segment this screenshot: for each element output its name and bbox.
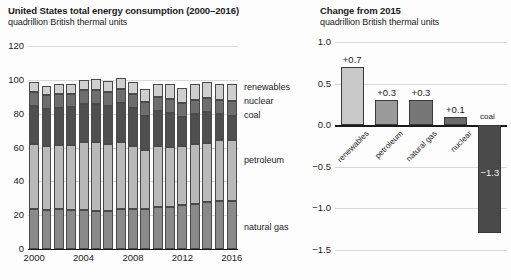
left-x-tick-label: 2000 [20,252,48,263]
stacked-bar-segment-renewables [66,84,76,94]
stacked-bar-segment-petroleum [177,146,187,205]
stacked-bar-segment-petroleum [190,144,200,203]
stacked-bar-segment-petroleum [42,146,52,211]
series-label-renewables: renewables [244,82,290,92]
stacked-bar-segment-natural-gas [29,209,39,249]
stacked-bar-segment-petroleum [153,146,163,207]
right-y-tick-label: −1.0 [303,202,331,213]
right-y-tick-label: 0.0 [303,119,331,130]
stacked-bar [91,46,101,249]
right-y-tick-label: 1.0 [303,36,331,47]
change-bar-renewables [341,67,364,125]
stacked-bar-segment-natural-gas [202,202,212,249]
stacked-bar [177,46,187,249]
left-y-tick-label: 60 [0,142,24,153]
stacked-bar-segment-petroleum [54,145,64,210]
stacked-bar [202,46,212,249]
stacked-bar-segment-coal [227,116,237,140]
change-bar-natural-gas [409,100,432,125]
stacked-bar [165,46,175,249]
stacked-bar-segment-petroleum [103,144,113,212]
stacked-bar-segment-renewables [42,86,52,95]
stacked-bar-segment-nuclear [227,101,237,115]
stacked-bar-segment-renewables [202,82,212,98]
stacked-bar-segment-natural-gas [215,201,225,249]
stacked-bar-segment-coal [202,112,212,142]
stacked-bar [79,46,89,249]
stacked-bar-segment-nuclear [116,89,126,103]
stacked-bar-segment-natural-gas [165,207,175,249]
right-gridline [335,42,507,43]
stacked-bar-segment-nuclear [165,99,175,113]
stacked-bar-segment-renewables [128,82,138,94]
stacked-bar-segment-coal [66,107,76,145]
stacked-bar-segment-petroleum [29,144,39,209]
stacked-bar-segment-petroleum [140,150,150,210]
stacked-bar-segment-coal [29,106,39,144]
stacked-bar-segment-renewables [116,78,126,89]
stacked-bar-segment-renewables [165,84,175,99]
stacked-bar-segment-natural-gas [91,211,101,249]
figure-caption [0,275,511,280]
left-y-tick-label: 120 [0,40,24,51]
left-x-tick-label: 2004 [70,252,98,263]
stacked-bar-segment-natural-gas [42,210,52,249]
stacked-bar-segment-nuclear [79,90,89,104]
stacked-bar-segment-nuclear [177,103,187,117]
stacked-bar [29,46,39,249]
stacked-bar-segment-coal [54,108,64,145]
stacked-bar [54,46,64,249]
stacked-bar-segment-coal [140,116,150,149]
stacked-bar-segment-coal [116,103,126,141]
panel-total-consumption: United States total energy consumption (… [0,0,300,280]
stacked-bar-segment-coal [165,113,175,146]
stacked-bar-segment-renewables [227,84,237,101]
stacked-bar [103,46,113,249]
stacked-bar-segment-natural-gas [140,209,150,249]
stacked-bar-segment-natural-gas [128,209,138,249]
series-label-natural-gas: natural gas [244,222,289,232]
stacked-bar-segment-nuclear [66,94,76,107]
stacked-bar-segment-petroleum [128,146,138,209]
stacked-bar-segment-nuclear [190,100,200,114]
left-y-tick-label: 100 [0,74,24,85]
stacked-bar-segment-coal [177,117,187,146]
stacked-bar-segment-coal [91,104,101,143]
stacked-bar-segment-coal [215,114,225,140]
stacked-bar-segment-petroleum [202,143,212,203]
stacked-bar-segment-renewables [140,89,150,102]
stacked-bar-segment-natural-gas [227,201,237,249]
stacked-bar-segment-petroleum [66,145,76,211]
stacked-bar-segment-coal [42,109,52,146]
change-bar-value-coal: −1.3 [478,167,501,178]
stacked-bar-segment-renewables [215,84,225,100]
stacked-bar-segment-nuclear [153,97,163,111]
change-bar-value-natural-gas: +0.3 [403,87,438,98]
left-axis-baseline [28,249,238,250]
stacked-bar [190,46,200,249]
stacked-bar-segment-petroleum [165,147,175,207]
right-plot-area: 1.00.50.0−0.5−1.0−1.5+0.7renewables+0.3p… [300,0,511,280]
stacked-bar-segment-coal [103,106,113,144]
stacked-bar-segment-nuclear [42,95,52,109]
stacked-bar-segment-renewables [103,81,113,92]
stacked-bar-segment-coal [79,104,89,142]
stacked-bar [140,46,150,249]
left-y-tick-label: 80 [0,108,24,119]
left-x-tick-label: 2008 [119,252,147,263]
series-label-coal: coal [244,110,261,120]
stacked-bar-segment-petroleum [91,142,101,210]
change-bar-value-renewables: +0.7 [335,54,370,65]
stacked-bar-segment-coal [153,111,163,146]
stacked-bar-segment-coal [190,114,200,144]
right-y-tick-label: −1.5 [303,244,331,255]
stacked-bar-segment-renewables [177,88,187,103]
left-y-tick-label: 40 [0,175,24,186]
stacked-bar-segment-renewables [29,82,39,92]
stacked-bar-segment-renewables [153,84,163,98]
stacked-bar-segment-natural-gas [177,205,187,249]
stacked-bar [128,46,138,249]
change-bar-nuclear [444,117,467,125]
right-y-tick-label: 0.5 [303,78,331,89]
stacked-bar-segment-nuclear [215,100,225,114]
